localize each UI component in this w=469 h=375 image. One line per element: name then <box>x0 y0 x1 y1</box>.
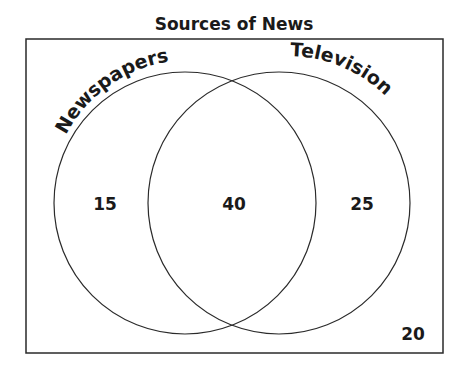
newspapers-label: Newspapers <box>50 44 170 137</box>
television-only-value: 25 <box>350 194 374 214</box>
newspapers-only-value: 15 <box>93 194 117 214</box>
intersection-value: 40 <box>222 194 246 214</box>
outside-value: 20 <box>401 324 425 344</box>
diagram-title: Sources of News <box>155 14 314 34</box>
venn-diagram: Sources of News Newspapers Television 15… <box>0 0 469 375</box>
